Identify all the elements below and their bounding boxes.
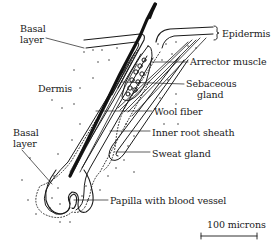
epidermis-brace xyxy=(214,26,219,40)
label-line: layer xyxy=(20,34,46,45)
basal-layer-dotted xyxy=(36,50,160,218)
leader-lines xyxy=(22,38,188,200)
label-papilla: Papilla with blood vessel xyxy=(110,195,226,206)
label-epidermis: Epidermis xyxy=(222,28,270,39)
label-line: gland xyxy=(186,89,237,100)
label-sweat-gland: Sweat gland xyxy=(152,148,211,159)
label-dermis: Dermis xyxy=(38,83,72,94)
label-line: Sebaceous xyxy=(186,78,237,89)
label-basal-layer-bottom: Basal layer xyxy=(13,127,39,149)
label-line: Basal xyxy=(13,127,39,138)
label-sebaceous-gland: Sebaceous gland xyxy=(186,78,237,100)
label-wool-fiber: Wool fiber xyxy=(154,106,202,117)
papilla xyxy=(70,194,77,209)
scale-bar-label: 100 microns xyxy=(207,219,266,230)
label-basal-layer-top: Basal layer xyxy=(20,23,46,45)
outer-root-sheath xyxy=(44,52,153,214)
label-arrector-muscle: Arrector muscle xyxy=(190,56,266,67)
label-inner-root-sheath: Inner root sheath xyxy=(152,127,235,138)
scale-bar xyxy=(201,233,257,239)
label-line: layer xyxy=(13,138,39,149)
label-line: Basal xyxy=(20,23,46,34)
